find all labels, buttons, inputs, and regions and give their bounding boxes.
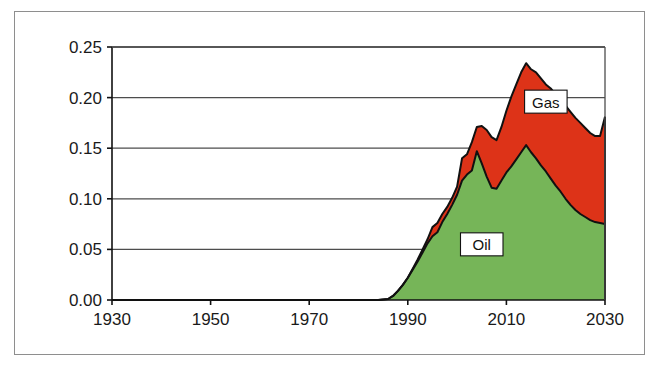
y-tick-label: 0.00: [69, 291, 102, 310]
x-tick-label: 1990: [389, 310, 427, 329]
series-label-text: Gas: [532, 94, 560, 111]
area-oil: [112, 145, 605, 300]
y-tick-label: 0.25: [69, 38, 102, 57]
area-chart: 0.000.050.100.150.200.251930195019701990…: [0, 0, 659, 370]
y-tick-label: 0.05: [69, 240, 102, 259]
x-tick-label: 2010: [487, 310, 525, 329]
x-tick-label: 1930: [93, 310, 131, 329]
series-label-gas: Gas: [525, 90, 568, 113]
x-tick-label: 1970: [290, 310, 328, 329]
figure-container: 0.000.050.100.150.200.251930195019701990…: [0, 0, 659, 370]
y-tick-label: 0.20: [69, 89, 102, 108]
x-tick-label: 2030: [586, 310, 624, 329]
y-tick-label: 0.15: [69, 139, 102, 158]
series-label-oil: Oil: [461, 233, 504, 256]
x-tick-label: 1950: [192, 310, 230, 329]
y-tick-label: 0.10: [69, 190, 102, 209]
series-label-text: Oil: [473, 236, 491, 253]
